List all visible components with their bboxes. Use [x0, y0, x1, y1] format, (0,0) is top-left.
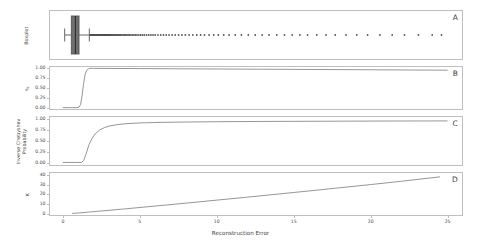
y-tick-label: 0.00 [35, 105, 45, 110]
panel-d-k: D [49, 172, 463, 216]
panel-d-plot [49, 172, 463, 216]
y-tick-mark [47, 98, 49, 99]
panel-d-ylabel: K [24, 193, 29, 196]
x-tick-label: 5 [138, 220, 141, 225]
panel-b-plot [49, 66, 463, 110]
x-axis-label: Reconstruction Error [0, 231, 481, 237]
panel-a-letter: A [453, 14, 458, 22]
panel-c-ylabel: Inverse Chebyshev Probability [16, 118, 27, 164]
y-tick-label: 10 [40, 202, 46, 207]
x-tick-mark [371, 216, 372, 218]
y-tick-label: 0.50 [35, 86, 45, 91]
y-tick-mark [47, 68, 49, 69]
y-tick-label: 1.00 [35, 116, 45, 121]
x-tick-label: 20 [368, 220, 374, 225]
y-tick-label: 0.00 [35, 161, 45, 166]
panel-c-letter: C [453, 120, 458, 128]
y-tick-mark [47, 194, 49, 195]
y-tick-mark [47, 141, 49, 142]
panel-a-ylabel: Boxplot [24, 26, 29, 44]
y-tick-label: 0.50 [35, 139, 45, 144]
y-tick-label: 1.00 [35, 66, 45, 71]
y-tick-mark [47, 88, 49, 89]
x-tick-mark [140, 216, 141, 218]
panel-a-boxplot: A [49, 10, 463, 60]
panel-b-ylabel: % [24, 86, 29, 91]
panel-c-chebyshev: C [49, 116, 463, 166]
panel-b-letter: B [453, 70, 458, 78]
y-tick-label: 0.75 [35, 76, 45, 81]
y-tick-mark [47, 119, 49, 120]
x-tick-mark [448, 216, 449, 218]
panel-a-plot [49, 10, 463, 60]
y-tick-mark [47, 204, 49, 205]
x-tick-mark [294, 216, 295, 218]
y-tick-mark [47, 185, 49, 186]
x-tick-label: 25 [445, 220, 451, 225]
panel-b-percent: B [49, 66, 463, 110]
y-tick-label: 0 [43, 211, 46, 216]
x-tick-label: 0 [61, 220, 64, 225]
y-tick-mark [47, 214, 49, 215]
y-tick-mark [47, 78, 49, 79]
y-tick-mark [47, 130, 49, 131]
y-tick-mark [47, 108, 49, 109]
y-tick-label: 40 [40, 173, 46, 178]
figure-canvas: A Boxplot B % C Inverse Chebyshev Probab… [0, 0, 481, 244]
y-tick-mark [47, 163, 49, 164]
x-tick-mark [217, 216, 218, 218]
x-tick-mark [63, 216, 64, 218]
y-tick-label: 20 [40, 192, 46, 197]
y-tick-mark [47, 175, 49, 176]
y-tick-mark [47, 152, 49, 153]
x-tick-label: 15 [291, 220, 297, 225]
y-tick-label: 0.25 [35, 150, 45, 155]
x-tick-label: 10 [214, 220, 220, 225]
y-tick-label: 0.25 [35, 96, 45, 101]
panel-c-plot [49, 116, 463, 166]
y-tick-label: 0.75 [35, 128, 45, 133]
y-tick-label: 30 [40, 182, 46, 187]
panel-d-letter: D [452, 176, 458, 184]
